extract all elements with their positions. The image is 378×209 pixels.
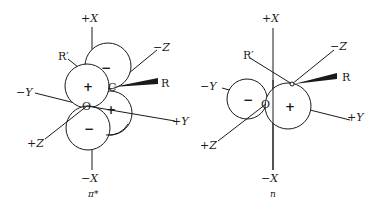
panel-caption-pi-star: π* — [87, 189, 99, 199]
substituent-label-r-prime: R′ — [243, 49, 254, 62]
lobe-sign-lower-left: − — [84, 122, 94, 136]
axis-label-plus-x: +X — [262, 12, 280, 25]
axis-label-plus-y: +Y — [172, 115, 190, 128]
lobe-sign-upper-right: − — [101, 61, 111, 75]
axis-label-plus-x: +X — [81, 12, 99, 25]
panel-pi-star: + − − + C O +X −X −Y +Y +Z −Z R R′ π* — [16, 12, 190, 199]
axis-label-minus-z: −Z — [153, 41, 170, 54]
axis-label-minus-z: −Z — [330, 40, 347, 53]
axis-label-minus-y: −Y — [200, 80, 218, 93]
axis-label-plus-y: +Y — [347, 111, 365, 124]
panel-caption-n: n — [270, 189, 276, 199]
r-prime-bond-line — [68, 59, 78, 67]
r-wedge-bond-icon — [294, 73, 337, 84]
substituent-label-r-prime: R′ — [58, 50, 69, 63]
lobe-sign-left: − — [243, 93, 253, 107]
atom-oxygen: O — [82, 100, 91, 113]
carbon-atom-marker — [290, 82, 294, 86]
axis-label-minus-x: −X — [81, 172, 99, 185]
lobe-sign-upper-left: + — [83, 80, 93, 94]
substituent-label-r: R — [161, 77, 170, 90]
axis-label-minus-x: −X — [261, 172, 279, 185]
plus-y-axis-line — [310, 110, 350, 120]
substituent-label-r: R — [342, 71, 351, 84]
atom-carbon: C — [108, 81, 116, 94]
axis-label-minus-y: −Y — [16, 86, 34, 99]
lobe-sign-right: + — [285, 100, 295, 114]
axis-label-plus-z: +Z — [27, 137, 44, 150]
r-prime-bond-line — [250, 58, 292, 84]
lobe-sign-lower-right: + — [106, 103, 116, 117]
orbital-diagram: + − − + C O +X −X −Y +Y +Z −Z R R′ π* — [0, 0, 378, 209]
axis-label-plus-z: +Z — [200, 139, 217, 152]
panel-n: − + O +X −X −Y +Y +Z −Z R R′ n — [200, 12, 365, 199]
atom-oxygen: O — [261, 98, 270, 111]
